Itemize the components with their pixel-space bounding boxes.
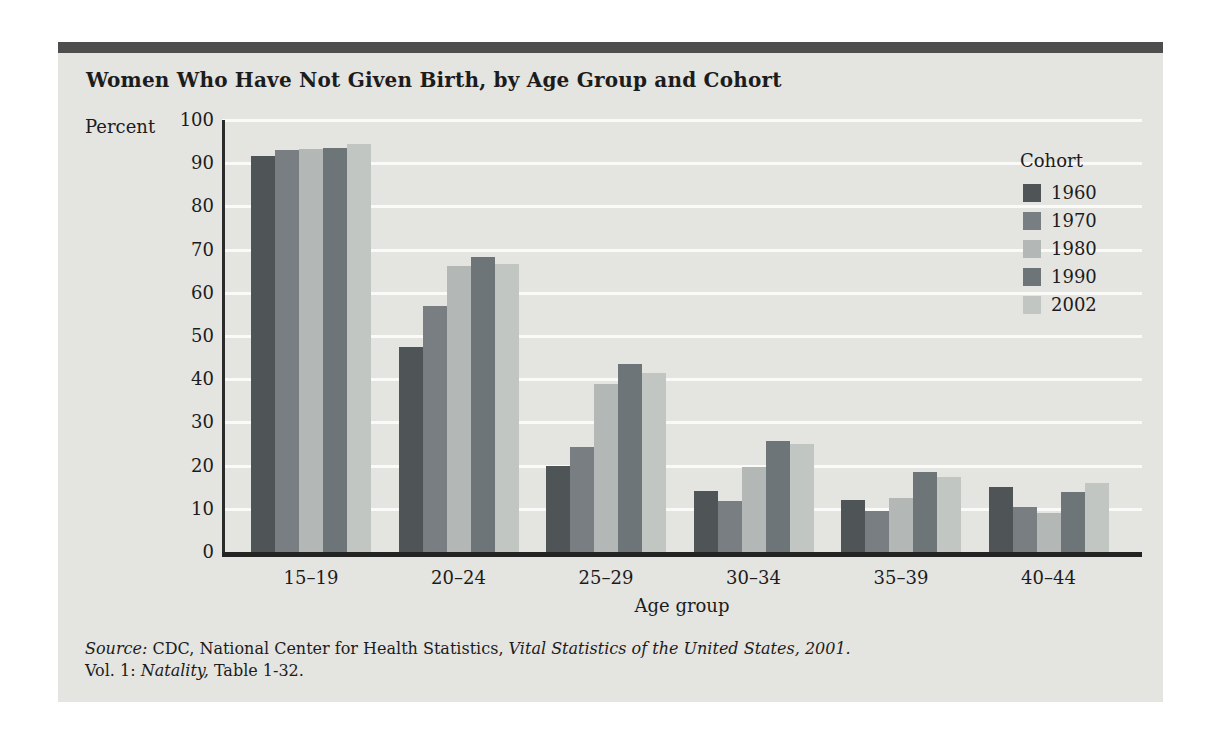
legend-label-2002: 2002 — [1051, 291, 1097, 319]
bar-1990-20-24 — [471, 257, 495, 552]
legend-label-1970: 1970 — [1051, 207, 1097, 235]
x-tick-label-40-44: 40–44 — [999, 567, 1099, 588]
source-line-1: Source: CDC, National Center for Health … — [85, 638, 851, 660]
source-text-segment: Source: — [85, 639, 147, 658]
bar-1980-30-34 — [742, 467, 766, 552]
legend-label-1960: 1960 — [1051, 179, 1097, 207]
bar-1990-25-29 — [618, 364, 642, 552]
source-text-segment: Vol. 1: — [85, 661, 141, 680]
bar-1990-15-19 — [323, 148, 347, 552]
legend-title: Cohort — [1020, 150, 1083, 171]
legend-item-2002: 2002 — [1020, 291, 1083, 319]
y-tick-label-90: 90 — [164, 153, 214, 173]
legend-item-1960: 1960 — [1020, 179, 1083, 207]
source-text-segment: Vital Statistics of the United States, 2… — [509, 639, 851, 658]
bar-1990-40-44 — [1061, 492, 1085, 552]
source-text-segment: CDC, National Center for Health Statisti… — [147, 639, 508, 658]
bar-1980-15-19 — [299, 149, 323, 552]
legend-swatch-1970 — [1023, 212, 1041, 230]
x-tick-label-35-39: 35–39 — [851, 567, 951, 588]
bar-1980-20-24 — [447, 266, 471, 552]
y-tick-label-10: 10 — [164, 499, 214, 519]
bar-1970-40-44 — [1013, 507, 1037, 552]
bar-2002-15-19 — [347, 144, 371, 552]
legend-swatch-1980 — [1023, 240, 1041, 258]
legend-label-1980: 1980 — [1051, 235, 1097, 263]
bar-1980-35-39 — [889, 498, 913, 552]
legend: Cohort 19601970198019902002 — [1020, 150, 1083, 319]
bar-1970-15-19 — [275, 150, 299, 552]
source-text-segment: Table 1-32. — [209, 661, 304, 680]
bar-1970-35-39 — [865, 511, 889, 552]
bar-2002-30-34 — [790, 444, 814, 552]
bar-1960-20-24 — [399, 347, 423, 552]
legend-swatch-1990 — [1023, 268, 1041, 286]
bar-1960-30-34 — [694, 491, 718, 552]
y-tick-label-70: 70 — [164, 240, 214, 260]
source-text-segment: Natality, — [141, 661, 209, 680]
bar-2002-25-29 — [642, 373, 666, 552]
legend-item-1990: 1990 — [1020, 263, 1083, 291]
bar-1970-30-34 — [718, 501, 742, 552]
x-tick-label-15-19: 15–19 — [261, 567, 361, 588]
gridline-100 — [222, 119, 1142, 122]
source-line-2: Vol. 1: Natality, Table 1-32. — [85, 660, 851, 682]
y-tick-label-80: 80 — [164, 196, 214, 216]
y-axis-line — [222, 120, 225, 557]
bar-1970-20-24 — [423, 306, 447, 552]
y-axis-title: Percent — [85, 116, 155, 137]
bar-1970-25-29 — [570, 447, 594, 552]
bar-1960-40-44 — [989, 487, 1013, 552]
x-axis-title: Age group — [222, 595, 1142, 616]
bar-2002-40-44 — [1085, 483, 1109, 552]
y-tick-label-40: 40 — [164, 369, 214, 389]
legend-item-1980: 1980 — [1020, 235, 1083, 263]
bar-1960-15-19 — [251, 156, 275, 552]
legend-item-1970: 1970 — [1020, 207, 1083, 235]
bar-2002-20-24 — [495, 264, 519, 552]
bar-1990-30-34 — [766, 441, 790, 552]
y-tick-label-0: 0 — [164, 542, 214, 562]
y-tick-label-50: 50 — [164, 326, 214, 346]
legend-label-1990: 1990 — [1051, 263, 1097, 291]
x-axis-line — [222, 552, 1142, 557]
bar-1960-25-29 — [546, 466, 570, 552]
y-tick-label-30: 30 — [164, 412, 214, 432]
plot-area — [222, 120, 1142, 557]
legend-swatch-1960 — [1023, 184, 1041, 202]
figure-panel: Women Who Have Not Given Birth, by Age G… — [58, 42, 1163, 702]
x-tick-label-25-29: 25–29 — [556, 567, 656, 588]
y-tick-label-60: 60 — [164, 283, 214, 303]
bar-1960-35-39 — [841, 500, 865, 552]
bar-1990-35-39 — [913, 472, 937, 552]
legend-swatch-2002 — [1023, 296, 1041, 314]
y-tick-label-20: 20 — [164, 456, 214, 476]
bar-2002-35-39 — [937, 477, 961, 552]
page: { "figure": { "title": "Women Who Have N… — [0, 0, 1209, 741]
x-tick-label-20-24: 20–24 — [409, 567, 509, 588]
source-note: Source: CDC, National Center for Health … — [85, 638, 851, 682]
bar-1980-25-29 — [594, 384, 618, 552]
x-tick-label-30-34: 30–34 — [704, 567, 804, 588]
bar-1980-40-44 — [1037, 513, 1061, 552]
top-accent-bar — [58, 42, 1163, 53]
legend-items: 19601970198019902002 — [1020, 179, 1083, 319]
y-tick-label-100: 100 — [164, 110, 214, 130]
chart-title: Women Who Have Not Given Birth, by Age G… — [86, 68, 782, 92]
